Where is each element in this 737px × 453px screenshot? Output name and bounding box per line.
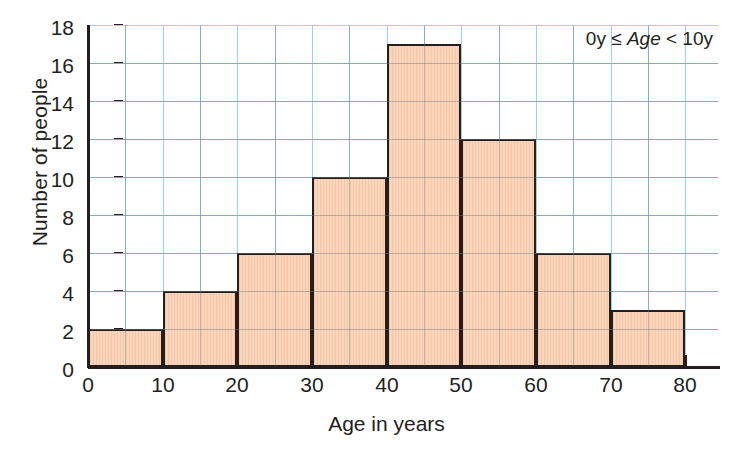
y-tick-label-8: 8 <box>40 207 74 228</box>
x-tick-mark-30 <box>311 355 314 368</box>
y-tick-label-6: 6 <box>40 245 74 266</box>
y-tick-label-16: 16 <box>40 55 74 76</box>
bar-70-80 <box>611 310 685 367</box>
x-tick-mark-20 <box>236 355 239 368</box>
x-tick-label-60: 60 <box>506 374 566 395</box>
bar-30-40 <box>312 177 387 367</box>
x-axis-line <box>88 366 720 369</box>
bar-40-50 <box>387 44 461 367</box>
y-tick-label-4: 4 <box>40 283 74 304</box>
y-tick-label-10: 10 <box>40 169 74 190</box>
x-tick-label-50: 50 <box>431 374 491 395</box>
y-axis-line <box>87 25 90 368</box>
bar-10-20 <box>163 291 237 367</box>
x-tick-label-80: 80 <box>655 374 715 395</box>
x-tick-mark-60 <box>535 355 538 368</box>
x-tick-label-10: 10 <box>133 374 193 395</box>
x-tick-label-70: 70 <box>581 374 641 395</box>
y-tick-label-14: 14 <box>40 93 74 114</box>
annotation-emphasis: Age <box>627 28 661 49</box>
x-tick-label-40: 40 <box>357 374 417 395</box>
x-tick-label-30: 30 <box>282 374 342 395</box>
bin-width-annotation: 0y ≤ Age < 10y <box>586 28 713 50</box>
x-tick-mark-10 <box>162 355 165 368</box>
annotation-prefix: 0y ≤ <box>586 28 627 49</box>
x-tick-label-0: 0 <box>58 374 118 395</box>
x-tick-mark-40 <box>386 355 389 368</box>
x-tick-mark-0 <box>87 355 90 368</box>
bars-layer <box>88 25 718 367</box>
histogram-chart: Number of people 18 16 14 12 10 8 6 4 2 … <box>0 0 737 453</box>
x-tick-mark-70 <box>610 355 613 368</box>
y-tick-label-2: 2 <box>40 321 74 342</box>
x-tick-label-20: 20 <box>207 374 267 395</box>
bar-0-10 <box>88 329 163 367</box>
y-tick-label-12: 12 <box>40 131 74 152</box>
bar-20-30 <box>237 253 312 367</box>
bar-50-60 <box>461 139 536 367</box>
x-axis-title: Age in years <box>88 412 685 436</box>
x-tick-mark-80 <box>684 355 687 368</box>
x-tick-mark-50 <box>460 355 463 368</box>
y-tick-label-18: 18 <box>40 17 74 38</box>
bar-60-70 <box>536 253 611 367</box>
annotation-suffix: < 10y <box>661 28 713 49</box>
